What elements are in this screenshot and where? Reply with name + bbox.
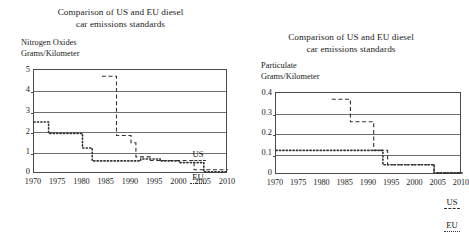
y-tick-label: 2 bbox=[18, 128, 30, 136]
x-tick-label: 1980 bbox=[73, 178, 89, 186]
x-tick-label: 1970 bbox=[267, 179, 283, 187]
x-tick-label: 2010 bbox=[453, 179, 469, 187]
chart-title-line2: car emissions standards bbox=[306, 44, 395, 54]
x-tick-label: 2010 bbox=[219, 178, 235, 186]
series-line-eu bbox=[276, 150, 462, 173]
y-tick-label: 0.4 bbox=[250, 89, 272, 97]
y-axis-caption-line1: Nitrogen Oxides bbox=[21, 38, 77, 47]
y-tick-label: 1 bbox=[18, 148, 30, 156]
chart-title-line2: car emissions standards bbox=[76, 19, 165, 29]
y-tick-label: 0 bbox=[18, 168, 30, 176]
legend-label-us: US bbox=[444, 198, 460, 207]
x-tick-label: 1990 bbox=[122, 178, 138, 186]
legend-item-us: US bbox=[190, 150, 206, 161]
x-tick-label: 1985 bbox=[337, 179, 353, 187]
legend-item-eu: EU bbox=[444, 221, 460, 232]
legend-swatch-us-dashed bbox=[190, 160, 206, 161]
chart-title-line1: Comparison of US and EU diesel bbox=[288, 32, 414, 42]
chart-panel-pm: Comparison of US and EU diesel car emiss… bbox=[237, 0, 466, 203]
plot-area-nox: US EU bbox=[33, 69, 227, 173]
x-tick-label: 1990 bbox=[360, 179, 376, 187]
x-tick-label: 1995 bbox=[383, 179, 399, 187]
y-tick-label: 0.3 bbox=[250, 109, 272, 117]
x-tick-label: 1970 bbox=[25, 178, 41, 186]
y-axis-caption-line1: Particulate bbox=[261, 61, 297, 70]
y-tick-label: 4 bbox=[18, 86, 30, 94]
series-lines-pm bbox=[276, 93, 462, 175]
legend-label-us: US bbox=[190, 150, 206, 159]
x-tick-label: 2000 bbox=[406, 179, 422, 187]
legend-swatch-us-dashed bbox=[444, 208, 460, 209]
x-tick-label: 1975 bbox=[290, 179, 306, 187]
x-tick-label: 1975 bbox=[49, 178, 65, 186]
y-axis-caption-nox: Nitrogen Oxides Grams/Kilometer bbox=[21, 38, 80, 59]
x-tick-label: 1980 bbox=[313, 179, 329, 187]
y-tick-label: 5 bbox=[18, 66, 30, 74]
y-axis-caption-line2: Grams/Kilometer bbox=[261, 72, 320, 81]
series-line-eu bbox=[34, 122, 228, 172]
x-tick-label: 2005 bbox=[195, 178, 211, 186]
x-tick-label: 2005 bbox=[430, 179, 446, 187]
chart-panel-nox: Comparison of US and EU diesel car emiss… bbox=[0, 0, 237, 203]
plot-area-pm: US EU bbox=[275, 92, 461, 174]
series-line-us bbox=[102, 76, 228, 170]
y-tick-label: 0.1 bbox=[250, 149, 272, 157]
legend-item-us: US bbox=[444, 198, 460, 209]
y-tick-label: 3 bbox=[18, 107, 30, 115]
x-tick-label: 1985 bbox=[98, 178, 114, 186]
chart-title-pm: Comparison of US and EU diesel car emiss… bbox=[261, 32, 441, 55]
series-line-us bbox=[332, 99, 462, 173]
y-axis-caption-pm: Particulate Grams/Kilometer bbox=[261, 61, 320, 82]
y-axis-caption-line2: Grams/Kilometer bbox=[21, 49, 80, 58]
chart-title-line1: Comparison of US and EU diesel bbox=[58, 7, 184, 17]
legend-label-eu: EU bbox=[444, 221, 460, 230]
y-tick-label: 0 bbox=[250, 169, 272, 177]
y-tick-label: 0.2 bbox=[250, 129, 272, 137]
legend-swatch-eu-dotted bbox=[444, 231, 460, 232]
chart-title-nox: Comparison of US and EU diesel car emiss… bbox=[38, 7, 203, 30]
x-tick-label: 2000 bbox=[170, 178, 186, 186]
x-tick-label: 1995 bbox=[146, 178, 162, 186]
